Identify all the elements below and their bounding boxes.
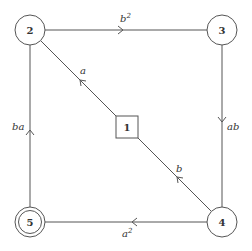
edge-4-to-5: a2 (45, 218, 207, 239)
node-5: 5 (15, 207, 45, 237)
node-4: 4 (207, 207, 237, 237)
svg-text:4: 4 (219, 217, 226, 228)
edge-3-to-4: ab (218, 45, 239, 207)
svg-text:3: 3 (219, 25, 226, 36)
svg-text:1: 1 (124, 122, 131, 133)
edge-1-to-2: a (41, 41, 116, 116)
svg-text:5: 5 (27, 217, 34, 228)
edge-label-a2: a2 (122, 227, 133, 239)
node-1: 1 (116, 116, 138, 138)
node-3: 3 (207, 15, 237, 45)
edge-label-ba: ba (12, 121, 24, 132)
edge-4-to-1: b (138, 138, 211, 211)
edge-label-ab: ab (227, 121, 239, 132)
edge-label-a: a (80, 65, 86, 76)
edge-label-b2: b2 (120, 12, 131, 24)
edge-5-to-2: ba (12, 45, 34, 207)
svg-text:2: 2 (27, 25, 34, 36)
state-diagram: b2 ab a2 ba a b 1 2 3 (0, 0, 252, 251)
edge-2-to-3: b2 (45, 12, 207, 34)
edge-label-b: b (176, 163, 182, 174)
node-2: 2 (15, 15, 45, 45)
